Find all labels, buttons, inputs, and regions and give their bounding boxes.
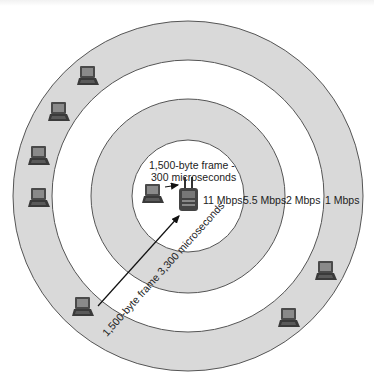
rate-label: 11 Mbps: [203, 194, 243, 206]
rate-label: 2 Mbps: [286, 194, 320, 206]
near-frame-label-line2: 300 microseconds: [151, 171, 236, 183]
wireless-rate-diagram: 1,500-byte frame - 300 microseconds 1,50…: [0, 0, 374, 384]
rate-labels: 11 Mbps5.5 Mbps2 Mbps1 Mbps: [203, 194, 359, 206]
rate-label: 1 Mbps: [325, 194, 359, 206]
rate-label: 5.5 Mbps: [243, 194, 286, 206]
near-frame-label-line1: 1,500-byte frame -: [149, 159, 235, 171]
